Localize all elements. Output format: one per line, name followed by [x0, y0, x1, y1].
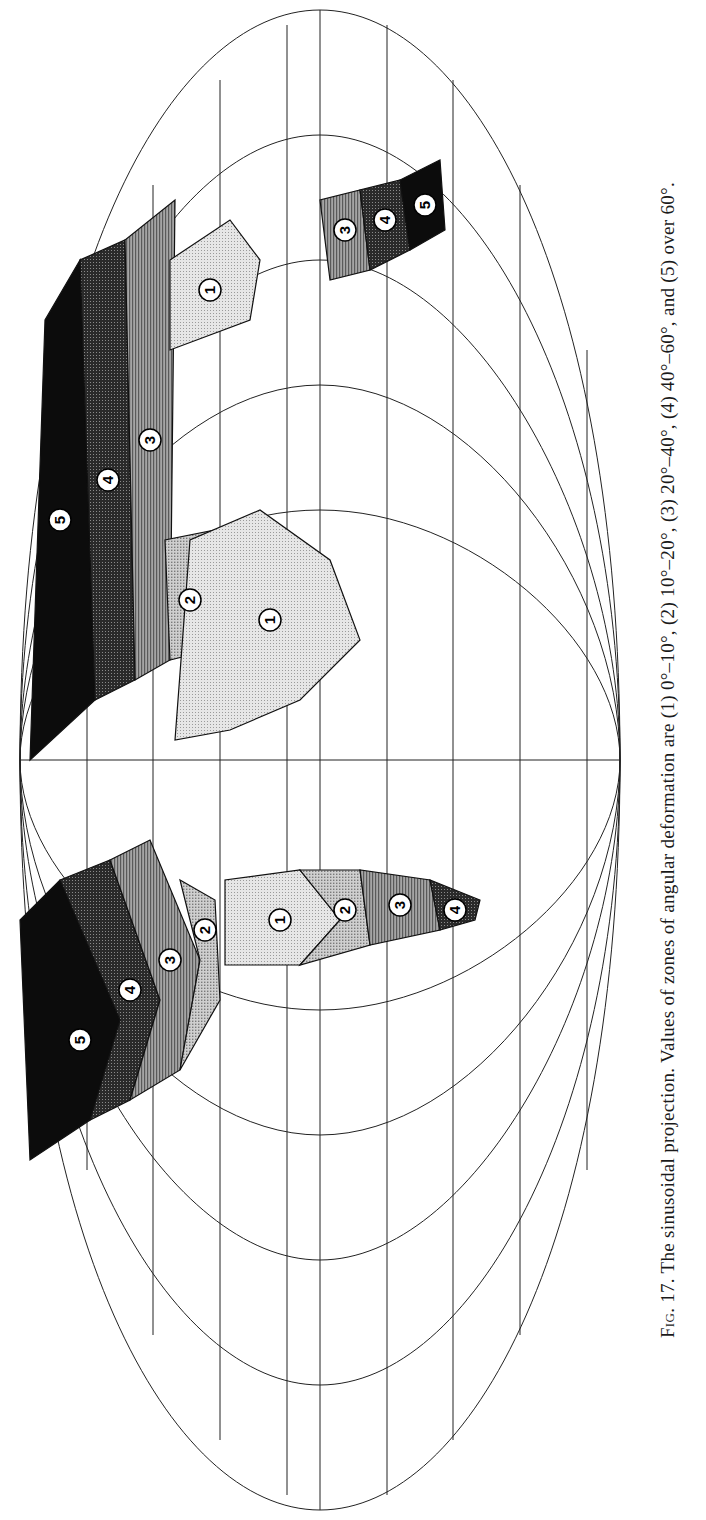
zone-marker-5-australia: 5 — [414, 194, 436, 216]
svg-text:3: 3 — [336, 226, 353, 234]
continents — [20, 160, 480, 1160]
zone-marker-4-eurasia: 4 — [97, 469, 119, 491]
svg-text:1: 1 — [271, 916, 288, 924]
zone-marker-3-australia: 3 — [334, 219, 356, 241]
svg-text:4: 4 — [121, 985, 138, 994]
svg-text:3: 3 — [141, 436, 158, 444]
zone-marker-5-eurasia: 5 — [49, 509, 71, 531]
svg-text:4: 4 — [446, 905, 463, 914]
zone-marker-4-north-america: 4 — [119, 979, 141, 1001]
zone-marker-1-africa: 1 — [259, 609, 281, 631]
sinusoidal-map: 5 4 3 2 1 2 3 4 5 4 3 2 1 1 3 4 5 — [0, 0, 640, 1520]
zone-marker-5-north-america: 5 — [69, 1029, 91, 1051]
svg-text:5: 5 — [71, 1036, 88, 1044]
figure-caption: Fig. 17. The sinusoidal projection. Valu… — [655, 20, 681, 1500]
zone-marker-2-north-america: 2 — [194, 919, 216, 941]
svg-text:1: 1 — [201, 286, 218, 294]
graticule — [20, 10, 620, 1510]
svg-text:3: 3 — [161, 956, 178, 964]
zone-marker-1-south-america: 1 — [269, 909, 291, 931]
svg-text:5: 5 — [51, 516, 68, 524]
figure-number: Fig. 17. — [657, 1278, 678, 1338]
zone-marker-1-southeast-asia: 1 — [199, 279, 221, 301]
zone-marker-2-eurasia: 2 — [179, 589, 201, 611]
zone-marker-3-south-america: 3 — [389, 894, 411, 916]
svg-text:5: 5 — [416, 201, 433, 209]
svg-text:4: 4 — [376, 215, 393, 224]
zone-marker-4-south-america: 4 — [444, 899, 466, 921]
zone-marker-2-south-america: 2 — [334, 899, 356, 921]
zone-marker-4-australia: 4 — [374, 209, 396, 231]
figure-title: The sinusoidal projection. — [657, 1068, 678, 1274]
zone-marker-3-eurasia: 3 — [139, 429, 161, 451]
svg-text:4: 4 — [99, 475, 116, 484]
zone-marker-3-north-america: 3 — [159, 949, 181, 971]
svg-text:3: 3 — [391, 901, 408, 909]
svg-text:1: 1 — [261, 616, 278, 624]
map-figure: 5 4 3 2 1 2 3 4 5 4 3 2 1 1 3 4 5 — [0, 0, 640, 1520]
svg-text:2: 2 — [196, 926, 213, 934]
figure-caption-body: Values of zones of angular deformation a… — [657, 182, 678, 1063]
north-america — [20, 840, 220, 1160]
svg-text:2: 2 — [336, 906, 353, 914]
svg-text:2: 2 — [181, 596, 198, 604]
